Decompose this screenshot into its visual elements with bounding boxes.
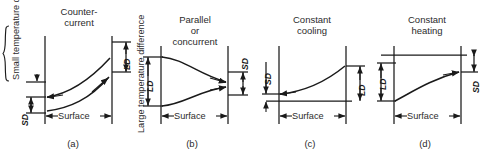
panel-b-surface-label: Surface — [174, 111, 206, 121]
panel-a-arrow-cold — [92, 78, 108, 92]
panel-b-curve-cold — [162, 87, 226, 106]
panel-a-smalldiff-brace — [3, 26, 9, 81]
panel-b-title-line1: Parallel — [160, 14, 230, 25]
panel-a-ld-label: LD — [122, 59, 132, 70]
panel-a-sd-label: SD — [20, 114, 30, 126]
panel-c-ld-label: LD — [357, 85, 367, 96]
panel-c-title-line1: Constant — [277, 14, 347, 25]
panel-d-ld-label: LD — [378, 79, 388, 90]
panel-c-curve — [280, 66, 345, 94]
panel-c-title: Constant cooling — [277, 14, 347, 36]
panel-b-curve-hot — [162, 57, 226, 82]
panel-d-title: Constant heating — [392, 14, 462, 36]
panel-a-title: Counter- current — [46, 6, 112, 28]
panel-a-curve-cold — [47, 77, 109, 111]
panel-d-caption: (d) — [395, 138, 455, 149]
panel-b-title-line3: concurrent — [160, 36, 230, 47]
panel-b-ld-label: LD — [145, 81, 155, 92]
panel-d-surface-label: Surface — [407, 111, 439, 121]
small-temperature-difference-label-line1: Small temperature difference — [11, 0, 21, 80]
panel-a-curve-hot — [47, 58, 110, 97]
panel-c-caption: (c) — [280, 138, 340, 149]
panel-a-caption: (a) — [43, 138, 103, 149]
panel-a-title-line2: current — [46, 17, 112, 28]
panel-b-title: Parallel or concurrent — [160, 14, 230, 47]
panel-d-sd-label: SD — [471, 81, 481, 93]
panel-c-surface-label: Surface — [292, 111, 324, 121]
panel-d-title-line1: Constant — [392, 14, 462, 25]
panel-d-title-line2: heating — [392, 25, 462, 36]
panel-a-surface-label: Surface — [58, 111, 90, 121]
panel-b-arrow-cold — [210, 87, 226, 90]
panel-c-title-line2: cooling — [277, 25, 347, 36]
panel-d-curve — [395, 72, 459, 101]
large-temperature-difference-label: Large temperature difference — [136, 15, 146, 133]
panel-a-title-line1: Counter- — [46, 6, 112, 17]
panel-b-sd-label: SD — [240, 58, 250, 70]
panel-c-sd-label: SD — [263, 73, 273, 85]
panel-b-title-line2: or — [160, 25, 230, 36]
panel-b-caption: (b) — [162, 138, 222, 149]
